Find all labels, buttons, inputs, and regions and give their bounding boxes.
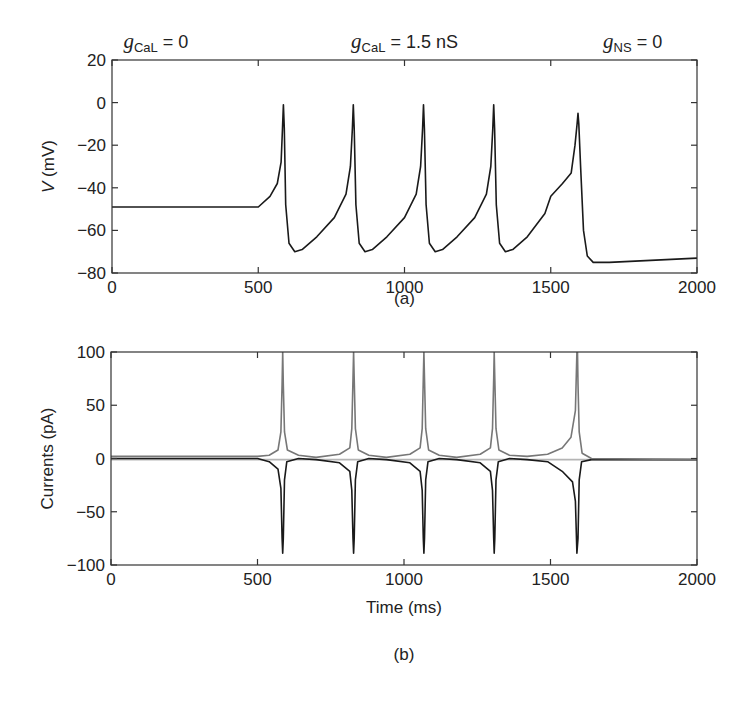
y-tick-label: −60 xyxy=(77,221,106,240)
y-tick-label: −20 xyxy=(77,136,106,155)
panel-caption: (a) xyxy=(394,289,415,308)
y-tick-label: −80 xyxy=(77,264,106,283)
figure: 0500100015002000200−20−40−60−80V (mV)(a)… xyxy=(0,0,747,701)
y-tick-label: 50 xyxy=(86,396,105,415)
x-tick-label: 2000 xyxy=(678,570,716,589)
x-tick-label: 0 xyxy=(106,570,115,589)
x-tick-label: 1500 xyxy=(532,278,570,297)
x-tick-label: 0 xyxy=(107,278,116,297)
conductance-annotation: gCaL = 1.5 nS xyxy=(351,29,458,55)
y-axis-label: V (mV) xyxy=(39,140,58,193)
y-tick-label: 0 xyxy=(96,450,105,469)
x-tick-label: 1000 xyxy=(385,570,423,589)
x-tick-label: 500 xyxy=(243,570,271,589)
panel-b-currents-plot: 0500100015002000100500−50−100Currents (p… xyxy=(38,343,716,664)
series-inward-line xyxy=(111,459,697,554)
panel-a-voltage-plot: 0500100015002000200−20−40−60−80V (mV)(a)… xyxy=(39,29,716,308)
conductance-annotation: gNS = 0 xyxy=(603,29,662,55)
x-axis-label: Time (ms) xyxy=(366,598,442,617)
y-tick-label: −50 xyxy=(76,503,105,522)
y-tick-label: −100 xyxy=(67,556,105,575)
y-axis-label: Currents (pA) xyxy=(38,407,57,509)
y-tick-label: 20 xyxy=(87,51,106,70)
x-tick-label: 500 xyxy=(244,278,272,297)
series-outward-line xyxy=(111,352,697,460)
y-tick-label: 0 xyxy=(97,94,106,113)
x-tick-label: 1500 xyxy=(532,570,570,589)
panel-caption: (b) xyxy=(394,645,415,664)
y-tick-label: 100 xyxy=(77,343,105,362)
y-tick-label: −40 xyxy=(77,179,106,198)
axes-frame xyxy=(112,60,697,273)
conductance-annotation: gCaL = 0 xyxy=(123,29,188,55)
x-tick-label: 2000 xyxy=(678,278,716,297)
series-v-line xyxy=(112,105,697,263)
